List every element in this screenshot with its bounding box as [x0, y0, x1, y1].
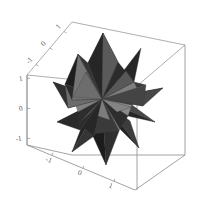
- x-tick-label-1: 1: [108, 181, 115, 191]
- stellated-dodecahedron: [53, 33, 163, 165]
- z-tick-label-1: 1: [18, 74, 23, 83]
- plot-figure: 1 0 -1 -1 0 1 -1 0 1: [0, 0, 203, 200]
- z-axis-tick-labels: 1 0 -1: [15, 74, 23, 144]
- z-tick-label-minus-1: -1: [15, 134, 23, 144]
- x-tick-label-0: 0: [77, 168, 84, 178]
- y-axis-tick-labels: -1 0 1: [24, 22, 63, 66]
- plot-canvas: 1 0 -1 -1 0 1 -1 0 1: [0, 0, 203, 200]
- y-tick-label-0: 0: [39, 39, 48, 48]
- y-tick-label-minus-1: -1: [24, 55, 35, 66]
- z-tick-label-0: 0: [18, 104, 23, 113]
- x-tick-label-minus-1: -1: [44, 154, 53, 165]
- y-tick-label-1: 1: [54, 22, 63, 31]
